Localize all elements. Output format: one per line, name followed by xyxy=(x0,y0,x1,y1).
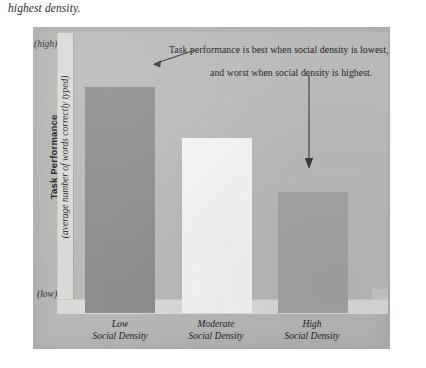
figure-caption-fragment: highest density. xyxy=(8,2,81,14)
bar-low-social-density xyxy=(85,87,155,313)
x-axis-label-low: Low Social Density xyxy=(65,318,175,343)
y-axis-low-label: (low) xyxy=(37,289,57,299)
y-axis-title-sub: (average number of words correctly typed… xyxy=(60,52,72,262)
bar-face xyxy=(278,192,348,313)
annotation-text-worst: and worst when social density is highest… xyxy=(210,67,372,78)
x-axis-label-low-line1: Low xyxy=(112,319,128,329)
x-axis-label-high: High Social Density xyxy=(257,318,367,343)
annotation-text-best: Task performance is best when social den… xyxy=(169,44,388,55)
bar-moderate-social-density xyxy=(182,138,252,313)
y-axis-title-main: Task Performance xyxy=(48,52,60,262)
y-axis-high-label: (high) xyxy=(34,39,57,49)
clipped-text-ghost xyxy=(186,0,424,5)
bar-high-social-density xyxy=(278,192,348,313)
bar-face xyxy=(182,138,252,313)
y-axis-title: Task Performance (average number of word… xyxy=(48,52,72,262)
x-axis-label-moderate: Moderate Social Density xyxy=(161,318,271,343)
x-axis-label-low-line2: Social Density xyxy=(65,330,175,342)
x-axis-label-moderate-line1: Moderate xyxy=(198,319,235,329)
bar-face xyxy=(85,87,155,313)
x-axis-label-moderate-line2: Social Density xyxy=(161,330,271,342)
x-axis-label-high-line1: High xyxy=(303,319,322,329)
bar-chart-figure: (high) (low) Task Performance (average n… xyxy=(33,27,390,349)
annotation-arrow-to-low-bar xyxy=(143,47,199,75)
x-axis-label-high-line2: Social Density xyxy=(257,330,367,342)
annotation-arrow-to-high-bar xyxy=(298,75,320,170)
